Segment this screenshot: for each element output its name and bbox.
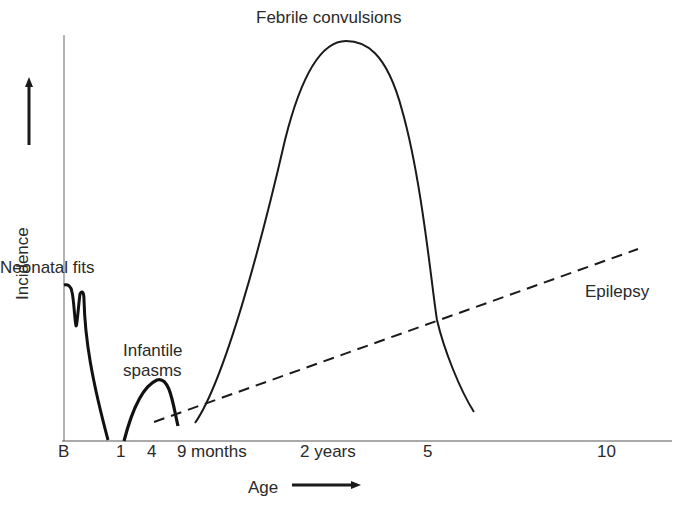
neonatal-fits-curve [64,285,108,440]
y-axis-title: Incidence [13,227,33,300]
febrile-convulsions-label: Febrile convulsions [256,8,402,28]
infantile-spasms-label-line2: spasms [123,361,182,381]
chart-canvas [0,0,682,516]
x-tick-9-months: 9 [177,442,186,462]
x-tick-4-months: 4 [147,442,156,462]
epilepsy-trend-line [154,249,638,422]
x-tick-birth: B [58,442,69,462]
febrile-convulsions-curve [195,41,474,423]
x-axis-title: Age [248,478,278,498]
x-tick-10-years: 10 [597,442,616,462]
infantile-spasms-label-line1: Infantile [123,341,183,361]
x-tick-5-years: 5 [423,442,432,462]
infantile-spasms-curve [124,380,178,441]
x-tick-1-month: 1 [116,442,125,462]
epilepsy-label: Epilepsy [585,282,649,302]
x-tick-months-word: months [191,442,247,462]
x-tick-2-years: 2 years [300,442,356,462]
